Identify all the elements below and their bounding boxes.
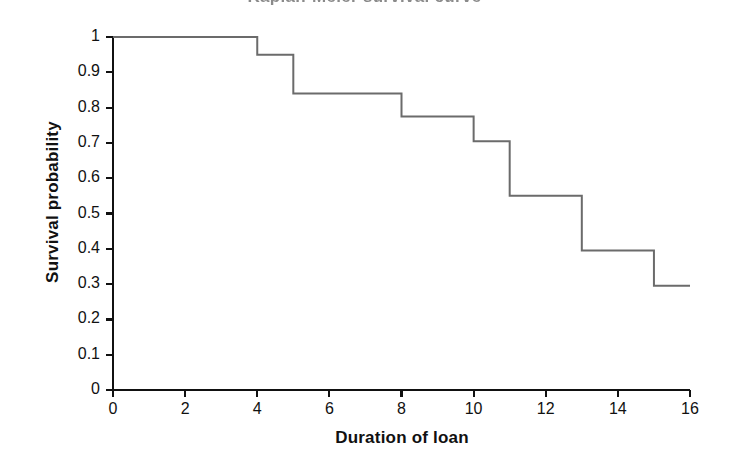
x-tick-label: 12 xyxy=(524,400,568,418)
x-tick-label: 0 xyxy=(91,400,135,418)
tick-marks xyxy=(106,37,690,397)
y-tick-label: 0.1 xyxy=(42,345,100,363)
x-tick-label: 6 xyxy=(307,400,351,418)
data-series xyxy=(113,37,690,286)
y-tick-label: 0.4 xyxy=(42,239,100,257)
y-tick-label: 0.5 xyxy=(42,204,100,222)
y-tick-label: 0.9 xyxy=(42,62,100,80)
x-tick-label: 8 xyxy=(380,400,424,418)
y-tick-label: 0.6 xyxy=(42,168,100,186)
x-tick-label: 10 xyxy=(452,400,496,418)
y-tick-label: 0.3 xyxy=(42,274,100,292)
x-tick-label: 2 xyxy=(163,400,207,418)
x-tick-label: 14 xyxy=(596,400,640,418)
y-tick-label: 0 xyxy=(42,380,100,398)
x-tick-label: 16 xyxy=(668,400,712,418)
axes xyxy=(113,37,690,390)
y-tick-label: 1 xyxy=(42,27,100,45)
y-tick-label: 0.2 xyxy=(42,309,100,327)
x-tick-label: 4 xyxy=(235,400,279,418)
y-tick-label: 0.8 xyxy=(42,98,100,116)
survival-curve-figure: Kaplan-Meier survival curve Survival pro… xyxy=(0,0,729,472)
y-tick-label: 0.7 xyxy=(42,133,100,151)
